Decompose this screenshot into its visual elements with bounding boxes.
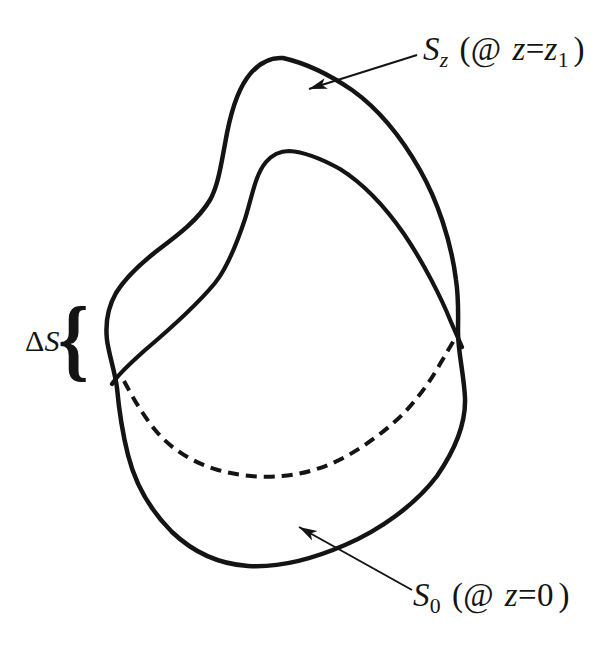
lower-surface-symbol: S: [413, 577, 430, 613]
volume-outline-curve: [106, 58, 465, 566]
upper-surface-value-subscript: 1: [558, 48, 569, 72]
upper-surface-subscript: z: [440, 48, 449, 72]
upper-surface-variable: z: [512, 31, 525, 67]
upper-surface-value: z: [545, 31, 558, 67]
upper-surface-label: Sz(@z=z1): [423, 31, 585, 67]
figure-canvas: Sz(@z=z1) S0(@z=0) ΔS {: [0, 0, 603, 655]
side-strip-brace: {: [58, 292, 89, 384]
side-strip-label: ΔS: [25, 324, 60, 357]
upper-surface-symbol: S: [423, 31, 440, 67]
lower-surface-value: 0: [537, 577, 554, 613]
lower-surface-annotation-close: ): [558, 577, 569, 613]
lower-surface-subscript: 0: [430, 594, 441, 618]
upper-surface-front-rim-curve: [112, 151, 462, 384]
surface-diagram-figure: [0, 0, 603, 655]
delta-symbol: Δ: [25, 324, 45, 357]
s0-leader-arrow: [299, 527, 412, 590]
upper-surface-annotation-open: (@: [460, 31, 502, 67]
lower-surface-equals: =: [518, 577, 537, 613]
upper-surface-annotation-close: ): [574, 31, 585, 67]
lower-surface-label: S0(@z=0): [413, 577, 570, 613]
lower-surface-annotation-open: (@: [452, 577, 494, 613]
lower-surface-variable: z: [505, 577, 518, 613]
lower-surface-hidden-rim-curve: [124, 337, 456, 477]
upper-surface-equals: =: [526, 31, 545, 67]
